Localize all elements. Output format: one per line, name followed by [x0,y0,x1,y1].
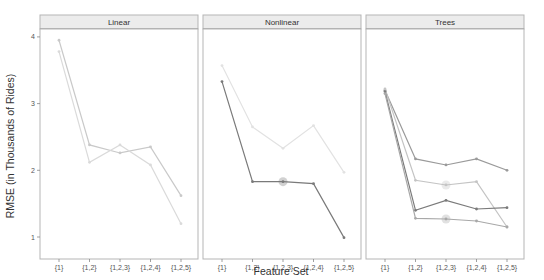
x-axis-label: Feature Set [254,265,309,277]
data-point [312,124,315,127]
data-point [343,171,346,174]
data-point [119,144,122,147]
x-tick-label: {1,2,3} [436,264,457,272]
data-point [282,147,285,150]
data-point [149,164,152,167]
y-axis-label: RMSE (in Thousands of Rides) [4,74,16,219]
data-point [475,220,478,223]
data-point [475,180,478,183]
x-tick-label: {1,2,5} [497,264,518,272]
data-point [343,236,346,239]
data-point [506,169,509,172]
data-point [445,184,448,187]
data-point [384,88,387,91]
data-point [445,164,448,167]
x-tick-label: {1,2} [408,264,423,272]
y-tick-label: 3 [31,100,35,107]
facet-panel-trees: Trees{1}{1,2}{1,2,3}{1,2,4}{1,2,5} [366,15,524,272]
y-tick-label: 4 [31,33,35,40]
x-tick-label: {1,2,5} [334,264,355,272]
x-tick-label: {1,2,5} [171,264,192,272]
x-tick-label: {1} [55,264,64,272]
data-point [88,144,91,147]
data-point [88,161,91,164]
data-point [414,209,417,212]
data-point [180,222,183,225]
data-point [180,194,183,197]
x-tick-label: {1,2} [82,264,97,272]
data-point [445,199,448,202]
data-point [58,39,61,42]
data-point [221,64,224,67]
data-point [506,226,509,229]
panels: Linear{1}{1,2}{1,2,3}{1,2,4}{1,2,5}1234N… [31,15,524,272]
data-point [475,208,478,211]
data-point [149,146,152,149]
data-point [414,179,417,182]
facet-panel-nonlinear: Nonlinear{1}{1,2}{1,2,3}{1,2,4}{1,2,5} [203,15,361,272]
data-point [251,126,254,129]
data-point [475,158,478,161]
data-point [282,180,285,183]
x-tick-label: {1,2,4} [140,264,161,272]
facet-strip-label: Trees [435,18,455,27]
data-point [445,218,448,221]
data-point [414,217,417,220]
data-point [221,80,224,83]
facet-strip-label: Nonlinear [265,18,300,27]
x-tick-label: {1} [381,264,390,272]
data-point [506,206,509,209]
y-tick-label: 2 [31,167,35,174]
data-point [58,50,61,53]
data-point [414,158,417,161]
faceted-line-chart: Linear{1}{1,2}{1,2,3}{1,2,4}{1,2,5}1234N… [0,0,544,280]
data-point [312,182,315,185]
data-point [384,92,387,95]
x-tick-label: {1,2,3} [110,264,131,272]
x-tick-label: {1} [218,264,227,272]
plot-area [203,29,361,259]
y-tick-label: 1 [31,234,35,241]
x-tick-label: {1,2,4} [466,264,487,272]
data-point [119,152,122,155]
facet-strip-label: Linear [108,18,131,27]
data-point [251,180,254,183]
facet-panel-linear: Linear{1}{1,2}{1,2,3}{1,2,4}{1,2,5}1234 [31,15,198,272]
plot-area [366,29,524,259]
